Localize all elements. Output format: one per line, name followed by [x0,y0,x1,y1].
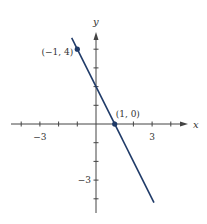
x-tick-label: −3 [33,132,47,142]
x-axis-arrow-icon [180,122,188,127]
data-point [75,47,80,52]
data-point [112,121,117,126]
axes: −33−3 [11,32,188,213]
y-axis-arrow-icon [94,32,99,40]
point-label: (1, 0) [116,109,140,119]
y-axis-label: y [92,16,99,27]
points-layer: (−1, 4)(1, 0) [42,47,140,127]
point-label: (−1, 4) [42,47,74,57]
y-tick-label: −3 [78,175,92,185]
x-axis-label: x [193,119,199,130]
x-tick-label: 3 [149,132,155,142]
line-chart: −33−3 (−1, 4)(1, 0) x y [0,0,207,224]
